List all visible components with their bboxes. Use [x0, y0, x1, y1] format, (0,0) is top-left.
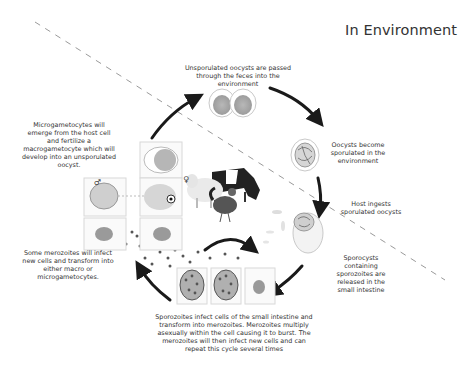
- arrow-to-sporulated: [270, 88, 318, 120]
- sporocyst-release: [263, 210, 323, 253]
- label-microgametocytes: Microgametocytes will emerge from the ho…: [22, 121, 116, 169]
- label-sporocysts: Sporocysts containing sporozoites are re…: [328, 254, 394, 294]
- label-merozoites: Some merozoites will infect new cells an…: [18, 249, 118, 281]
- sporulated-oocyst: [291, 139, 319, 171]
- host-animals: [186, 168, 260, 222]
- arrow-to-unsporulated: [152, 98, 196, 138]
- arrow-to-ingest: [318, 178, 321, 210]
- arrow-to-intestine: [272, 266, 302, 292]
- unsporulated-oocysts: [209, 89, 256, 117]
- arrow-to-gametocytes: [140, 268, 170, 300]
- label-ingests: Host ingests sporulated oocysts: [335, 200, 407, 216]
- female-symbol: ♀: [183, 175, 189, 184]
- label-sporozoites: Sporozoites infect cells of the small in…: [155, 313, 313, 353]
- label-sporulated: Oocysts become sporulated in the environ…: [325, 141, 391, 165]
- label-unsporulated: Unsporulated oocysts are passed through …: [183, 64, 293, 88]
- arrow-repeat: [205, 239, 252, 250]
- male-symbol: ♂: [94, 178, 101, 187]
